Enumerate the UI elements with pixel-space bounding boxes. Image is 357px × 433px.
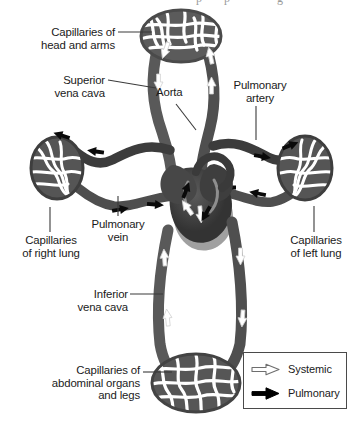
label-inferior-vena-cava: Inferior vena cava bbox=[48, 288, 128, 313]
label-aorta: Aorta bbox=[156, 86, 200, 99]
descending-aorta-vessel bbox=[219, 222, 242, 378]
capillary-bed-left-lung bbox=[276, 136, 332, 200]
label-pulmonary-artery: Pulmonary artery bbox=[224, 79, 296, 104]
label-pulmonary-vein: Pulmonary vein bbox=[82, 218, 154, 243]
capillary-bed-abdominal-organs-and-legs bbox=[152, 354, 242, 418]
legend-item-systemic: Systemic bbox=[251, 360, 332, 378]
label-capillaries-abdominal-organs-and-legs: Capillaries of abdominal organs and legs bbox=[10, 364, 140, 402]
systemic-arrow-icon bbox=[251, 363, 281, 376]
inferior-vena-cava-vessel bbox=[158, 230, 178, 378]
legend-label-pulmonary: Pulmonary bbox=[288, 387, 340, 399]
legend-label-systemic: Systemic bbox=[288, 363, 332, 375]
leader-aorta bbox=[176, 104, 196, 130]
pulmonary-arrow-icon bbox=[251, 387, 281, 400]
label-capillaries-left-lung: Capillaries of left lung bbox=[277, 234, 355, 259]
legend-item-pulmonary: Pulmonary bbox=[251, 384, 340, 402]
label-capillaries-head-and-arms: Capillaries of head and arms bbox=[3, 26, 115, 51]
legend: Systemic Pulmonary bbox=[243, 352, 347, 409]
label-superior-vena-cava: Superior vena cava bbox=[3, 74, 105, 99]
superior-vena-cava-vessel bbox=[153, 46, 173, 186]
circulatory-system-figure: pp g bbox=[0, 0, 357, 433]
